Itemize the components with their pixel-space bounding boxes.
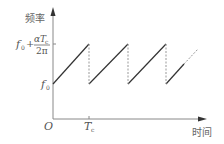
y-axis-label: 频率: [25, 12, 45, 24]
svg-text:0: 0: [21, 44, 25, 51]
y-tick-label-f0: f 0: [40, 78, 50, 91]
x-axis-arrow-icon: [198, 117, 207, 122]
x-tick-label-tc: T c: [84, 120, 95, 133]
svg-text:c: c: [91, 126, 95, 133]
svg-text:2π: 2π: [36, 46, 48, 56]
y-tick-label-upper: f 0 + α T c 2π: [15, 34, 50, 56]
y-axis-arrow-icon: [51, 7, 56, 16]
chart-canvas: 频率 f 0 + α T c 2π f 0 O T c 时间: [0, 0, 224, 144]
origin-label: O: [44, 120, 53, 133]
svg-text:c: c: [45, 38, 49, 45]
reset-dashes: [89, 44, 166, 84]
x-axis-label: 时间: [192, 126, 212, 138]
sawtooth-series: [53, 44, 198, 84]
svg-text:0: 0: [46, 84, 50, 91]
